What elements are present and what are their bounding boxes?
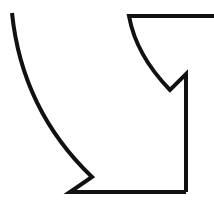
left-arc-with-bottom-zigzag (12, 13, 186, 192)
right-edge-notch-and-upper-arc (129, 16, 214, 192)
diagram-canvas (0, 0, 214, 211)
